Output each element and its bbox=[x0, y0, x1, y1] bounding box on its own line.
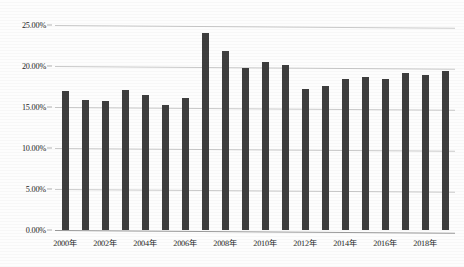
bar bbox=[382, 79, 389, 230]
x-axis: 2000年2002年2004年2006年2008年2010年2012年2014年… bbox=[55, 236, 455, 258]
x-axis-tick-label: 2010年 bbox=[253, 236, 276, 248]
bar bbox=[202, 33, 209, 230]
x-axis-tick-label: 2008年 bbox=[213, 236, 236, 248]
bar bbox=[122, 90, 129, 230]
x-axis-tick-label: 2016年 bbox=[373, 236, 396, 248]
bar bbox=[162, 105, 169, 230]
bar bbox=[322, 86, 329, 230]
x-axis-tick-label: 2000年 bbox=[53, 236, 76, 248]
bar bbox=[362, 77, 369, 230]
plot-area bbox=[55, 18, 455, 237]
y-axis-tick-label: 0.00% bbox=[26, 226, 46, 235]
y-axis-tick-label: 10.00% bbox=[22, 144, 46, 153]
y-axis-tick-label: 25.00% bbox=[22, 21, 46, 30]
x-axis-tick-label: 2004年 bbox=[133, 236, 156, 248]
y-axis: 0.00%5.00%10.00%15.00%20.00%25.00% bbox=[0, 0, 52, 267]
y-axis-tick-label: 20.00% bbox=[22, 62, 46, 71]
x-axis-tick-label: 2018年 bbox=[413, 236, 436, 248]
bar bbox=[282, 65, 289, 230]
bar bbox=[442, 71, 449, 230]
x-axis-tick-label: 2006年 bbox=[173, 236, 196, 248]
y-axis-tick-label: 15.00% bbox=[22, 103, 46, 112]
axis-baseline bbox=[55, 230, 455, 234]
bar bbox=[222, 51, 229, 230]
x-axis-tick-label: 2014年 bbox=[333, 236, 356, 248]
y-axis-tick-mark bbox=[47, 230, 52, 231]
y-axis-tick-mark bbox=[47, 148, 52, 149]
bar bbox=[102, 101, 109, 230]
bar bbox=[182, 98, 189, 230]
bar bbox=[242, 68, 249, 230]
y-axis-tick-label: 5.00% bbox=[26, 185, 46, 194]
bar bbox=[82, 100, 89, 230]
bar-series bbox=[55, 18, 455, 230]
bar bbox=[62, 91, 69, 230]
x-axis-tick-label: 2012年 bbox=[293, 236, 316, 248]
bar bbox=[262, 62, 269, 230]
bar bbox=[302, 89, 309, 230]
bar bbox=[402, 73, 409, 230]
y-axis-tick-mark bbox=[47, 107, 52, 108]
y-axis-tick-mark bbox=[47, 25, 52, 26]
y-axis-tick-mark bbox=[47, 189, 52, 190]
x-axis-tick-label: 2002年 bbox=[93, 236, 116, 248]
bar bbox=[422, 75, 429, 230]
bar-chart: 0.00%5.00%10.00%15.00%20.00%25.00% 2000年… bbox=[0, 0, 464, 267]
y-axis-tick-mark bbox=[47, 66, 52, 67]
bar bbox=[342, 79, 349, 230]
bar bbox=[142, 95, 149, 230]
